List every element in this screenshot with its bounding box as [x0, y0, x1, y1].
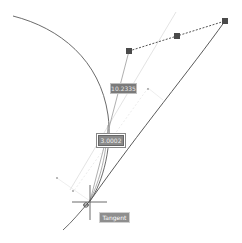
dimension-point [56, 177, 58, 179]
geometry-layer [0, 0, 242, 243]
snap-tooltip: Tangent [99, 212, 130, 223]
square-grip-icon[interactable] [174, 33, 180, 39]
arc[interactable] [13, 16, 109, 230]
drawing-canvas[interactable]: 10.2335 3.0002 Tangent [0, 0, 242, 243]
square-grip-icon[interactable] [222, 18, 228, 24]
spline-segment[interactable] [90, 21, 225, 201]
dimension-input-field[interactable]: 10.2335 [110, 83, 137, 94]
construction-line [57, 178, 90, 201]
dimension-point [72, 190, 74, 192]
square-grip-icon[interactable] [126, 48, 132, 54]
dimension-input-field-active[interactable]: 3.0002 [98, 135, 124, 146]
construction-line [148, 88, 163, 100]
tangent-line[interactable] [90, 51, 129, 201]
construction-line [70, 12, 176, 190]
dimension-point [147, 88, 149, 90]
